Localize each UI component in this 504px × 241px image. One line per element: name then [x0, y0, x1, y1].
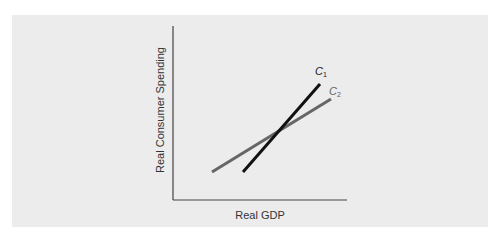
c2-label-main: C	[329, 85, 337, 97]
consumption-function-diagram	[0, 0, 504, 241]
c1-label-sub: 1	[323, 71, 327, 78]
c1-line	[243, 84, 320, 172]
y-axis-label: Real Consumer Spending	[154, 47, 166, 173]
c2-line	[212, 99, 331, 172]
c2-label-sub: 2	[337, 91, 341, 98]
c1-label-main: C	[315, 65, 323, 77]
x-axis-label: Real GDP	[235, 209, 285, 221]
c1-label: C1	[315, 65, 327, 78]
c2-label: C2	[329, 85, 341, 98]
